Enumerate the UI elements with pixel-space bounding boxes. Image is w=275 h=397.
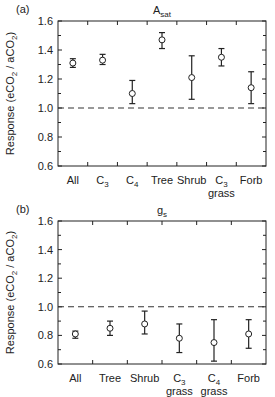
data-point	[159, 33, 165, 49]
panel-a-asat-chart: (a)Asat0.60.81.01.21.41.6Response (eCO2 …	[0, 0, 275, 200]
y-tick-label: 1.0	[38, 301, 53, 313]
chart-title: gs	[157, 204, 167, 219]
y-axis-label: Response (eCO2 / aCO2)	[4, 32, 19, 155]
data-point	[129, 80, 135, 103]
y-tick-label: 1.6	[38, 15, 53, 27]
marker-circle	[129, 91, 135, 97]
marker-circle	[218, 54, 224, 60]
y-tick-label: 1.2	[38, 272, 53, 284]
x-category-label: Tree	[151, 174, 173, 186]
marker-circle	[176, 335, 182, 341]
data-point	[248, 72, 254, 104]
data-point	[246, 320, 252, 349]
marker-circle	[159, 37, 165, 43]
data-point	[142, 311, 148, 334]
y-tick-label: 0.8	[38, 131, 53, 143]
y-tick-label: 0.6	[38, 160, 53, 172]
x-category-label: Tree	[99, 372, 121, 384]
x-category-label: All	[69, 372, 81, 384]
marker-circle	[211, 340, 217, 346]
marker-circle	[70, 60, 76, 66]
y-tick-label: 1.4	[38, 244, 53, 256]
x-category-label: Shrub	[130, 372, 159, 384]
x-category-label-line2: grass	[166, 385, 193, 397]
data-point	[189, 56, 195, 100]
data-point	[211, 320, 217, 361]
data-point	[176, 324, 182, 353]
data-point	[72, 331, 78, 338]
data-point	[100, 54, 106, 64]
x-category-label: Forb	[240, 174, 263, 186]
marker-circle	[72, 331, 78, 337]
marker-circle	[100, 57, 106, 63]
plot-frame	[58, 221, 266, 364]
y-axis-label: Response (eCO2 / aCO2)	[4, 231, 19, 354]
y-tick-label: 0.8	[38, 329, 53, 341]
y-tick-label: 1.6	[38, 215, 53, 227]
x-category-label-line2: grass	[201, 385, 228, 397]
panel-label: (b)	[16, 203, 29, 215]
data-point	[70, 59, 76, 68]
x-category-label: Shrub	[177, 174, 206, 186]
gs-plot: (b)gs0.60.81.01.21.41.6Response (eCO2 / …	[0, 200, 275, 397]
x-category-label-line2: grass	[208, 187, 235, 199]
y-tick-label: 1.2	[38, 73, 53, 85]
marker-circle	[189, 75, 195, 81]
marker-circle	[248, 85, 254, 91]
data-point	[218, 49, 224, 66]
marker-circle	[142, 321, 148, 327]
chart-title: Asat	[153, 4, 172, 19]
marker-circle	[107, 325, 113, 331]
marker-circle	[246, 331, 252, 337]
x-category-label: Forb	[237, 372, 260, 384]
y-tick-label: 1.0	[38, 102, 53, 114]
x-category-label: C4	[126, 174, 139, 189]
y-tick-label: 1.4	[38, 44, 53, 56]
x-category-label: All	[67, 174, 79, 186]
y-tick-label: 0.6	[38, 358, 53, 370]
panel-label: (a)	[16, 3, 29, 15]
panel-b-gs-chart: (b)gs0.60.81.01.21.41.6Response (eCO2 / …	[0, 200, 275, 397]
x-category-label: C3	[96, 174, 109, 189]
data-point	[107, 321, 113, 335]
asat-plot: (a)Asat0.60.81.01.21.41.6Response (eCO2 …	[0, 0, 275, 200]
